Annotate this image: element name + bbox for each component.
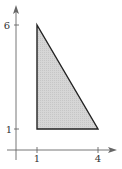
shaded-triangle-region <box>37 25 98 129</box>
x-tick-label-1: 1 <box>34 153 40 164</box>
y-tick-label-1: 1 <box>6 124 12 135</box>
x-tick-label-4: 4 <box>95 153 101 164</box>
y-tick-label-6: 6 <box>4 20 10 31</box>
plot-area: 6 1 1 4 <box>0 0 122 169</box>
